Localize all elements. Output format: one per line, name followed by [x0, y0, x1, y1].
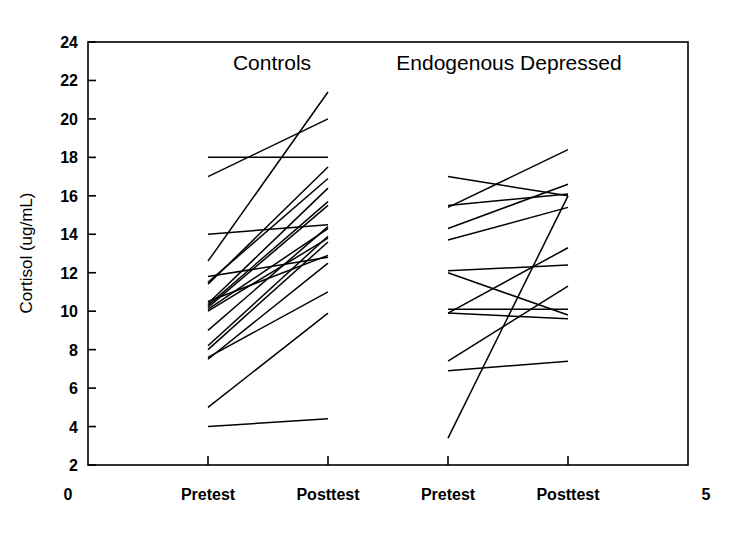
- series-lines-group: [208, 92, 568, 438]
- y-tick-label: 16: [60, 188, 78, 205]
- y-axis-ticks: [88, 42, 96, 465]
- series-line: [448, 248, 568, 313]
- cortisol-spaghetti-chart-figure: 24681012141618202224 PretestPosttestPret…: [0, 0, 729, 536]
- y-tick-label: 2: [69, 457, 78, 474]
- series-line: [448, 286, 568, 361]
- y-axis-tick-labels: 24681012141618202224: [60, 34, 78, 474]
- y-tick-label: 24: [60, 34, 78, 51]
- x-axis-right-end-label: 5: [702, 486, 711, 503]
- x-tick-label: Pretest: [421, 486, 476, 503]
- group-title-controls: Controls: [233, 51, 311, 74]
- y-tick-label: 18: [60, 149, 78, 166]
- chart-canvas: 24681012141618202224 PretestPosttestPret…: [0, 0, 729, 536]
- x-axis-left-end-label: 0: [64, 486, 73, 503]
- plot-frame: [88, 42, 688, 465]
- y-tick-label: 8: [69, 342, 78, 359]
- series-line: [448, 177, 568, 196]
- series-line: [448, 194, 568, 206]
- series-line: [208, 205, 328, 307]
- x-axis-ticks: [208, 456, 568, 465]
- y-axis-title: Cortisol (ug/mL): [17, 193, 36, 314]
- series-line: [448, 361, 568, 371]
- series-line: [208, 242, 328, 350]
- series-line: [208, 92, 328, 261]
- x-tick-label: Posttest: [296, 486, 360, 503]
- series-line: [448, 196, 568, 438]
- x-tick-label: Pretest: [181, 486, 236, 503]
- y-tick-label: 20: [60, 111, 78, 128]
- series-line: [208, 229, 328, 310]
- series-line: [448, 265, 568, 271]
- series-line: [208, 188, 328, 303]
- series-line: [208, 419, 328, 427]
- x-axis-tick-labels: PretestPosttestPretestPosttest: [181, 486, 600, 503]
- y-tick-label: 22: [60, 72, 78, 89]
- y-tick-label: 6: [69, 380, 78, 397]
- series-line: [448, 207, 568, 240]
- series-line: [448, 184, 568, 228]
- series-line: [208, 119, 328, 177]
- y-tick-label: 10: [60, 303, 78, 320]
- y-tick-label: 14: [60, 226, 78, 243]
- x-tick-label: Posttest: [536, 486, 600, 503]
- y-tick-label: 12: [60, 265, 78, 282]
- series-line: [208, 255, 328, 301]
- group-title-endogenous-depressed: Endogenous Depressed: [396, 51, 621, 74]
- y-tick-label: 4: [69, 419, 78, 436]
- series-line: [208, 292, 328, 357]
- series-line: [448, 150, 568, 208]
- series-line: [208, 313, 328, 407]
- series-line: [208, 238, 328, 311]
